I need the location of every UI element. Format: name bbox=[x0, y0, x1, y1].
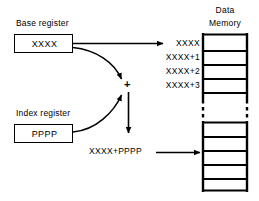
arrow-base-to-adder bbox=[73, 48, 122, 80]
memory-title-line2: Memory bbox=[195, 19, 255, 28]
memory-title-line1: Data bbox=[195, 6, 255, 15]
memory-address-label-2: XXXX+2 bbox=[120, 67, 200, 76]
memory-address-label-0: XXXX bbox=[120, 39, 200, 48]
base-register-value: XXXX bbox=[15, 40, 74, 49]
indexed-addressing-diagram: Base register XXXX Index register PPPP +… bbox=[0, 0, 259, 201]
index-register-box: PPPP bbox=[14, 124, 73, 143]
diagram-canvas bbox=[0, 0, 259, 201]
base-register-box: XXXX bbox=[14, 34, 73, 53]
sum-label: XXXX+PPPP bbox=[89, 147, 142, 156]
base-register-caption: Base register bbox=[16, 19, 69, 28]
index-register-caption: Index register bbox=[16, 109, 70, 118]
memory-address-label-3: XXXX+3 bbox=[120, 81, 200, 90]
memory-address-label-1: XXXX+1 bbox=[120, 53, 200, 62]
index-register-value: PPPP bbox=[15, 130, 74, 139]
arrow-index-to-adder bbox=[73, 95, 122, 132]
